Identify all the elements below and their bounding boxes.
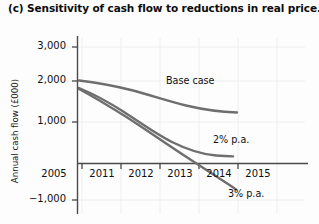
figure-sensitivity-cash-flow: (c) Sensitivity of cash flow to reductio… [0,0,319,224]
series-label-3-percent: 3% p.a. [228,188,264,199]
chart-title: (c) Sensitivity of cash flow to reductio… [8,2,313,15]
y-axis-title: Annual cash flow (£000) [10,71,20,191]
x-tick-label-2013: 2013 [159,168,201,179]
series-label-base-case: Base case [166,75,214,86]
y-tick-label-1000: 1,000 [20,115,66,126]
x-tick-label-2015: 2015 [237,168,279,179]
gridlines [60,38,305,214]
plot-area: Annual cash flow (£000) 3,000 2,000 1,00… [0,18,319,224]
y-tick-label-minus-1000: −1,000 [20,193,66,204]
y-tick-label-2000: 2,000 [20,74,66,85]
series-label-2-percent: 2% p.a. [213,134,249,145]
x-tick-label-2005: 2005 [33,168,75,179]
y-tick-label-3000: 3,000 [20,40,66,51]
x-tick-label-2011: 2011 [81,168,123,179]
x-tick-label-2014: 2014 [198,168,240,179]
x-tick-label-2012: 2012 [120,168,162,179]
